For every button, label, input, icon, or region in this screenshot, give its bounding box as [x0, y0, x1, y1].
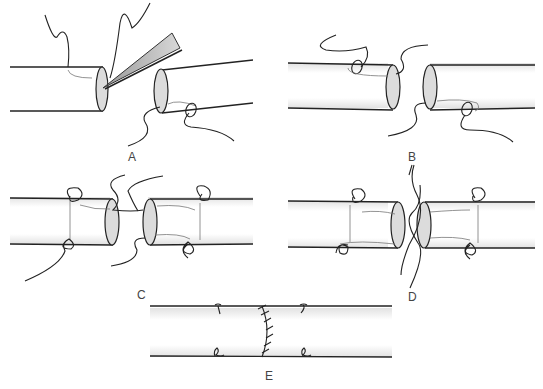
anastomosis-diagram	[0, 0, 543, 389]
panel-a	[10, 3, 253, 146]
panel-label-e: E	[265, 369, 273, 383]
panel-e	[150, 304, 392, 357]
panel-label-b: B	[408, 150, 416, 164]
panel-label-d: D	[408, 290, 417, 304]
panel-label-a: A	[128, 150, 136, 164]
panel-d	[288, 165, 535, 288]
panel-c	[10, 175, 253, 281]
panel-label-c: C	[137, 288, 146, 302]
